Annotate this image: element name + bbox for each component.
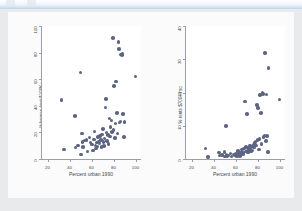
y-axis-tick-label: 0 [178,159,182,161]
scatter-point [113,136,117,140]
scatter-point [278,98,282,102]
scatter-point [112,128,116,132]
x-axis-tick-label: 20 [45,166,50,170]
scatter-point [267,66,271,70]
scatter-point [79,71,83,75]
y-axis-tick [39,79,42,80]
x-axis-tick [192,159,193,162]
x-axis-tick-label: 60 [233,166,238,170]
y-axis-tick [183,59,186,60]
y-axis-tick-label: 40 [178,26,182,31]
x-axis-title-left: Percent urban 1990 [41,172,141,177]
scatter-point [257,148,261,152]
y-axis-tick-label: 0 [34,159,38,161]
scatter-point [107,142,111,146]
scatter-point [224,124,228,128]
scatter-point [81,145,85,149]
x-axis-tick [136,159,137,162]
scatter-point [254,144,258,148]
y-axis-tick-label: 20 [34,132,38,137]
plot-area-right: 01020304020406080100 [185,26,285,160]
scatter-point [122,135,126,139]
x-axis-tick-label: 20 [189,166,194,170]
scatter-point [134,75,138,79]
scatter-point [88,136,92,140]
x-axis-tick [92,159,93,162]
page-background: % homes cost $100K+ 02040608010020406080… [0,9,302,211]
y-axis-tick-label: 80 [34,52,38,57]
x-axis-tick [214,159,215,162]
y-axis-tick-label: 100 [34,26,38,33]
scatter-point [112,84,116,88]
scatter-point [62,148,66,152]
scatter-point [245,112,249,116]
y-axis-tick-label: 20 [178,92,182,97]
scatter-point [76,144,80,148]
ghost-tab-icon-2 [27,0,36,6]
scatter-point [121,52,125,56]
y-axis-tick [183,93,186,94]
scatter-point [117,40,121,44]
scatter-panel-right: % rents $700+/mo 01020304020406080100 Pe… [154,16,291,194]
x-axis-tick [114,159,115,162]
scatter-panel-left: % homes cost $100K+ 02040608010020406080… [10,16,147,194]
app-chrome-strip [0,0,302,9]
x-axis-tick-label: 40 [211,166,216,170]
x-axis-tick [258,159,259,162]
scatter-point [251,149,255,153]
scatter-point [263,51,267,55]
y-axis-tick [183,126,186,127]
plot-area-left: 02040608010020406080100 [41,26,141,160]
scatter-point [60,98,64,102]
scatter-point [256,106,260,110]
scatter-point [96,145,100,149]
figure-canvas: % homes cost $100K+ 02040608010020406080… [8,12,294,198]
scatter-point [100,133,104,137]
scatter-point [266,150,270,154]
scatter-point [116,132,120,136]
x-axis-tick [236,159,237,162]
y-axis-tick [183,26,186,27]
ghost-tab-icon-1 [6,0,15,6]
scatter-point [86,150,90,154]
scatter-point [121,112,125,116]
scatter-point [243,100,247,104]
scatter-point [114,122,118,126]
y-axis-tick-label: 40 [34,106,38,111]
y-axis-tick [39,26,42,27]
y-axis-tick-label: 10 [178,125,182,130]
x-axis-tick [280,159,281,162]
scatter-point [264,139,268,143]
scatter-point [260,142,264,146]
x-axis-tick-label: 80 [111,166,116,170]
scatter-point [93,130,97,134]
scatter-point [265,93,269,97]
x-axis-tick-label: 80 [255,166,260,170]
x-axis-tick [70,159,71,162]
y-axis-tick [39,132,42,133]
scatter-point [206,155,210,159]
y-axis-tick [183,159,186,160]
scatter-point [73,114,77,118]
scatter-point [104,97,108,101]
y-axis-tick [39,106,42,107]
scatter-point [123,120,127,124]
y-axis-tick [39,159,42,160]
x-axis-tick-label: 100 [132,166,139,170]
x-axis-title-right: Percent urban 1990 [185,172,285,177]
scatter-point [104,106,108,110]
scatter-point [204,147,208,151]
scatter-point [117,47,121,51]
y-axis-tick-label: 60 [34,79,38,84]
scatter-point [259,111,263,115]
y-axis-tick-label: 30 [178,59,182,64]
scatter-point [80,132,84,136]
scatter-point [114,80,118,84]
scatter-point [119,120,123,124]
x-axis-tick [48,159,49,162]
scatter-point [265,134,269,138]
scatter-point [102,144,106,148]
x-axis-tick-label: 60 [89,166,94,170]
scatter-point [258,137,262,141]
scatter-point [111,36,115,40]
